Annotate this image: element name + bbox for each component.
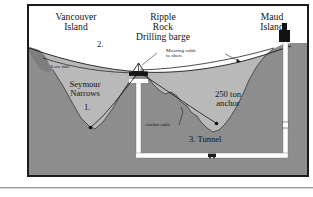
- label-mooring-cable: Mooring cable to shore: [166, 48, 197, 58]
- anchor-point-left: [89, 126, 93, 130]
- label-callout-one: 1.: [84, 103, 90, 112]
- shaft-cage-icon: [283, 122, 289, 128]
- diagram-frame: Vancouver Island Ripple Rock Drilling ba…: [27, 4, 309, 177]
- footer-rule-shadow: [0, 188, 313, 189]
- label-callout-three-tunnel: 3. Tunnel: [189, 135, 221, 144]
- label-250-ton-anchor: 250 ton anchor: [201, 90, 255, 108]
- figure-stage: Vancouver Island Ripple Rock Drilling ba…: [0, 0, 313, 197]
- label-ripple-rock: Ripple Rock Drilling barge: [115, 12, 211, 41]
- maud-island-shaft: [283, 42, 288, 158]
- barge-vertical-shaft: [136, 79, 141, 157]
- label-anchor-cable: Anchor cable: [145, 123, 171, 128]
- label-seymour-narrows: Seymour Narrows: [53, 80, 117, 98]
- label-vancouver-island: Vancouver Island: [33, 12, 119, 32]
- label-maud-island: Maud Island: [243, 12, 301, 32]
- label-callout-two: 2.: [97, 40, 103, 49]
- label-low-tide: Low tide: [51, 64, 70, 69]
- anchor-point-right: [215, 122, 219, 126]
